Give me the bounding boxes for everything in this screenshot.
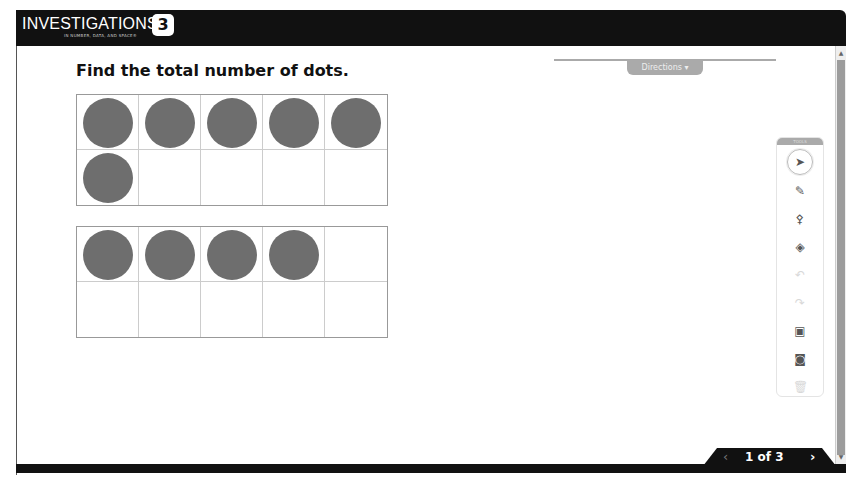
- text-box-icon: ▣: [794, 324, 805, 338]
- dot: [83, 98, 133, 148]
- stamp-icon: ⚴: [796, 212, 805, 226]
- ten-frame-cell: [77, 95, 139, 150]
- eraser-icon: ◈: [795, 240, 804, 254]
- dot: [269, 230, 319, 280]
- ten-frame-cell: [139, 95, 201, 150]
- page-navigator: ‹ 1 of 3 ›: [703, 448, 836, 466]
- ten-frame-cell: [325, 227, 387, 282]
- scroll-down-arrow-icon[interactable]: ▼: [836, 452, 846, 462]
- ten-frame-cell: [139, 282, 201, 337]
- ten-frame-cell: [263, 227, 325, 282]
- dot: [83, 230, 133, 280]
- pencil-icon: ✎: [795, 184, 805, 198]
- undo-icon: ↶: [795, 268, 805, 282]
- ten-frame-cell: [263, 150, 325, 205]
- trash-icon: 🗑: [793, 380, 808, 394]
- shape-tool-button[interactable]: ◙: [788, 347, 812, 371]
- toolbox: TOOLS ➤✎⚴◈↶↷▣◙🗑: [776, 137, 824, 397]
- dot: [207, 230, 257, 280]
- page-indicator: 1 of 3: [745, 450, 784, 464]
- dot: [269, 98, 319, 148]
- directions-toggle[interactable]: Directions ▾: [627, 61, 703, 75]
- ten-frame-cell: [201, 95, 263, 150]
- ten-frame-cell: [201, 150, 263, 205]
- ten-frame-1: [76, 94, 388, 206]
- text-box-tool-button[interactable]: ▣: [788, 319, 812, 343]
- ten-frame-cell: [263, 282, 325, 337]
- next-page-button[interactable]: ›: [810, 449, 815, 464]
- toolbox-handle[interactable]: TOOLS: [777, 138, 823, 145]
- undo-tool-button[interactable]: ↶: [788, 263, 812, 287]
- dot: [145, 230, 195, 280]
- logo-badge-icon: 3: [152, 14, 174, 36]
- vertical-scrollbar[interactable]: ▲ ▼: [835, 46, 846, 464]
- prev-page-button[interactable]: ‹: [723, 449, 728, 464]
- ten-frame-cell: [77, 227, 139, 282]
- scroll-up-arrow-icon[interactable]: ▲: [836, 48, 846, 58]
- ten-frame-2: [76, 226, 388, 338]
- question-prompt: Find the total number of dots.: [76, 61, 349, 80]
- shape-icon: ◙: [794, 352, 806, 366]
- ten-frame-cell: [139, 227, 201, 282]
- dot: [145, 98, 195, 148]
- ten-frame-cell: [325, 150, 387, 205]
- ten-frame-cell: [77, 282, 139, 337]
- header-bar: INVESTIGATIONS IN NUMBER, DATA, AND SPAC…: [16, 10, 846, 46]
- trash-tool-button[interactable]: 🗑: [788, 375, 812, 399]
- select-icon: ➤: [795, 155, 805, 169]
- redo-tool-button[interactable]: ↷: [788, 291, 812, 315]
- dot: [83, 153, 133, 203]
- ten-frame-cell: [201, 282, 263, 337]
- ten-frame-cell: [325, 282, 387, 337]
- logo-subtitle: IN NUMBER, DATA, AND SPACE®: [64, 33, 137, 38]
- dot: [331, 98, 381, 148]
- scrollbar-thumb[interactable]: [837, 60, 845, 455]
- ten-frame-cell: [201, 227, 263, 282]
- pencil-tool-button[interactable]: ✎: [788, 179, 812, 203]
- ten-frame-cell: [139, 150, 201, 205]
- eraser-tool-button[interactable]: ◈: [788, 235, 812, 259]
- ten-frame-cell: [325, 95, 387, 150]
- investigations-logo: INVESTIGATIONS IN NUMBER, DATA, AND SPAC…: [22, 14, 158, 33]
- ten-frame-cell: [77, 150, 139, 205]
- redo-icon: ↷: [795, 296, 805, 310]
- ten-frame-cell: [263, 95, 325, 150]
- select-tool-button[interactable]: ➤: [787, 149, 813, 175]
- logo-text: INVESTIGATIONS: [22, 15, 158, 32]
- dot: [207, 98, 257, 148]
- stamp-tool-button[interactable]: ⚴: [788, 207, 812, 231]
